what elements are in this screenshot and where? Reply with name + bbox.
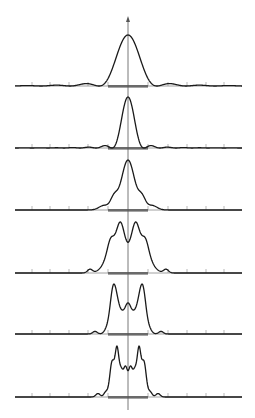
intensity-curve-1 (15, 35, 242, 86)
intensity-curves (15, 35, 242, 397)
intensity-curve-4 (15, 222, 242, 273)
intensity-curve-2 (15, 97, 242, 148)
arrow-up-icon (126, 16, 130, 22)
intensity-curve-3 (15, 160, 242, 210)
intensity-curve-6 (15, 346, 242, 397)
diffraction-figure (0, 0, 255, 418)
intensity-curve-5 (15, 284, 242, 334)
